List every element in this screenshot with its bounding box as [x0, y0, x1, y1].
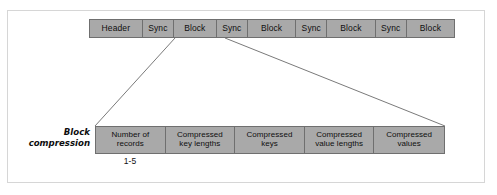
- stream-cell-block-1: Block: [174, 20, 217, 37]
- range-annotation: 1-5: [95, 156, 165, 166]
- stream-cell-sync-4: Sync: [376, 20, 407, 37]
- block-compression-label: Block compression: [10, 127, 90, 148]
- block-field-line2: key lengths: [177, 140, 223, 149]
- block-field-line2: value lengths: [315, 140, 363, 149]
- connector-line-left: [95, 38, 175, 126]
- block-compression-fields: Number of records Compressed key lengths…: [95, 126, 445, 154]
- block-field-text: Compressed keys: [247, 131, 293, 149]
- block-field-compressed-key-lengths: Compressed key lengths: [166, 127, 236, 153]
- block-field-text: Compressed value lengths: [315, 131, 363, 149]
- stream-cell-header: Header: [90, 20, 143, 37]
- stream-cell-label: Block: [261, 24, 282, 34]
- block-field-number-of-records: Number of records: [96, 127, 166, 153]
- block-compression-label-line2: compression: [10, 138, 90, 149]
- block-field-compressed-keys: Compressed keys: [235, 127, 305, 153]
- stream-cell-sync-1: Sync: [143, 20, 174, 37]
- stream-cell-sync-2: Sync: [217, 20, 248, 37]
- block-field-text: Compressed key lengths: [177, 131, 223, 149]
- stream-cell-label: Sync: [222, 24, 241, 34]
- block-field-line2: values: [386, 140, 432, 149]
- block-field-text: Compressed values: [386, 131, 432, 149]
- stream-cell-label: Block: [184, 24, 205, 34]
- stream-cell-label: Block: [420, 24, 441, 34]
- block-field-compressed-values: Compressed values: [374, 127, 444, 153]
- block-field-line2: records: [111, 140, 149, 149]
- stream-cell-label: Header: [102, 24, 130, 34]
- stream-cell-label: Sync: [148, 24, 167, 34]
- block-compression-label-line1: Block: [10, 127, 90, 138]
- stream-cell-label: Block: [340, 24, 361, 34]
- stream-cell-block-2: Block: [248, 20, 296, 37]
- block-field-text: Number of records: [111, 131, 149, 149]
- stream-cell-label: Sync: [302, 24, 321, 34]
- stream-cell-sync-3: Sync: [296, 20, 327, 37]
- stream-cell-block-3: Block: [327, 20, 375, 37]
- stream-cell-block-4: Block: [407, 20, 454, 37]
- stream-cell-label: Sync: [381, 24, 400, 34]
- sequence-file-stream: Header Sync Block Sync Block Sync Block …: [89, 19, 455, 38]
- block-field-compressed-value-lengths: Compressed value lengths: [305, 127, 375, 153]
- connector-line-right: [225, 38, 445, 126]
- block-field-line2: keys: [247, 140, 293, 149]
